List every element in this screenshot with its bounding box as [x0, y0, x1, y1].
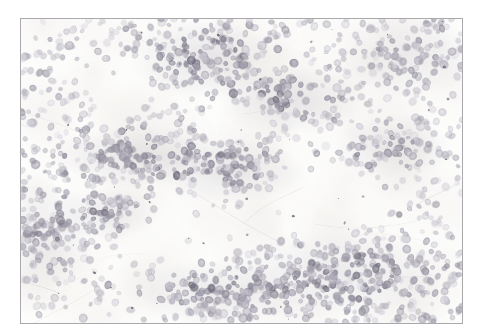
micrograph-canvas — [21, 19, 462, 323]
screenshot-viewport: photomicrograph cytology-smear-lymphoid-… — [0, 0, 483, 336]
micrograph-frame — [20, 18, 463, 324]
